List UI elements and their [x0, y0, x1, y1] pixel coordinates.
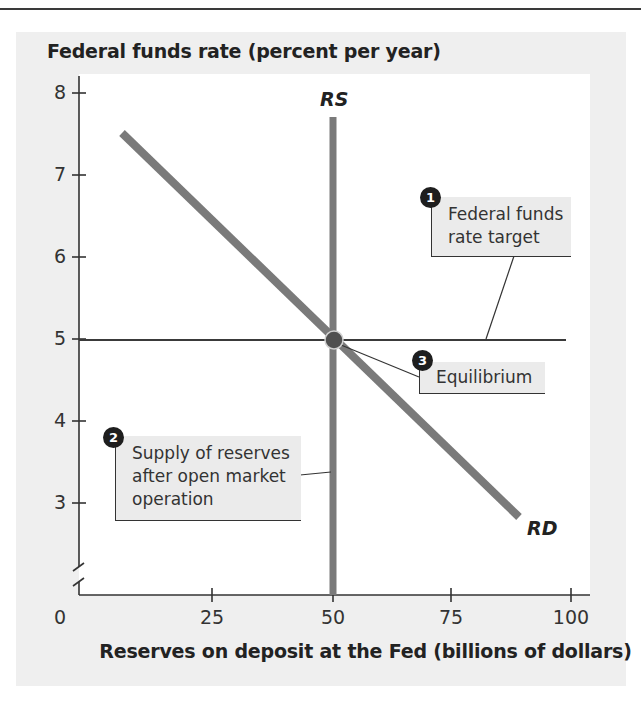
callout-1-badge: 1 [420, 187, 441, 208]
callout-2-leader [300, 472, 331, 475]
callout-2-line2: after open market [132, 465, 301, 488]
y-tick-8: 8 [46, 81, 66, 103]
rs-label: RS [320, 88, 348, 110]
callout-2-line3: operation [132, 488, 301, 511]
x-tick-75: 75 [426, 606, 476, 628]
callout-supply-of-reserves: Supply of reserves after open market ope… [115, 436, 301, 521]
y-tick-3: 3 [46, 491, 66, 513]
callout-1-line2: rate target [448, 226, 571, 249]
callout-3-line1: Equilibrium [436, 366, 545, 389]
x-tick-25: 25 [187, 606, 237, 628]
y-tick-7: 7 [46, 163, 66, 185]
callout-federal-funds-rate-target: Federal funds rate target [431, 197, 571, 257]
callout-2-line1: Supply of reserves [132, 442, 301, 465]
callout-1-leader [486, 256, 514, 339]
rd-label: RD [527, 517, 557, 539]
callout-3-badge: 3 [412, 350, 433, 371]
x-axis-title: Reserves on deposit at the Fed (billions… [0, 640, 641, 662]
x-tick-0: 0 [35, 606, 85, 628]
x-tick-50: 50 [308, 606, 358, 628]
y-tick-5: 5 [46, 327, 66, 349]
callout-2-badge: 2 [103, 427, 124, 448]
callout-1-line1: Federal funds [448, 203, 571, 226]
equilibrium-point [325, 331, 343, 349]
x-tick-100: 100 [546, 606, 596, 628]
callout-equilibrium: Equilibrium [419, 362, 545, 394]
y-tick-6: 6 [46, 245, 66, 267]
y-tick-4: 4 [46, 409, 66, 431]
